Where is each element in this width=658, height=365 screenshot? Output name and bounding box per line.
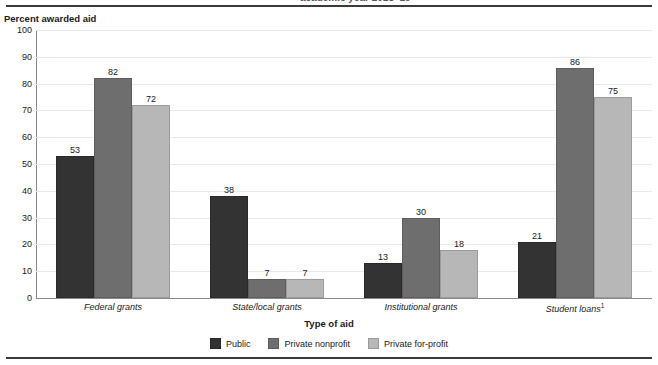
x-axis-category-label: State/local grants xyxy=(232,302,302,312)
bar[interactable]: 38 xyxy=(210,196,248,298)
bar[interactable]: 75 xyxy=(594,97,632,298)
legend-swatch xyxy=(210,338,221,349)
legend-label: Private for-profit xyxy=(384,339,448,349)
bar[interactable]: 18 xyxy=(440,250,478,298)
legend-label: Private nonprofit xyxy=(284,339,350,349)
x-axis-category-label: Federal grants xyxy=(84,302,142,312)
bar[interactable]: 7 xyxy=(248,279,286,298)
bar[interactable]: 53 xyxy=(56,156,94,298)
bar[interactable]: 7 xyxy=(286,279,324,298)
chart-legend: PublicPrivate nonprofitPrivate for-profi… xyxy=(0,338,658,349)
bar-value-label: 82 xyxy=(108,67,118,77)
clipped-title-text: academic year 2018–19 xyxy=(300,0,411,3)
y-axis-tick-label: 90 xyxy=(22,52,32,62)
top-divider-rule xyxy=(6,5,652,7)
legend-swatch xyxy=(368,338,379,349)
y-axis-tick-label: 50 xyxy=(22,159,32,169)
y-axis-tick-label: 0 xyxy=(27,293,32,303)
footnote-marker: 1 xyxy=(601,302,605,309)
legend-swatch xyxy=(268,338,279,349)
bar[interactable]: 86 xyxy=(556,68,594,298)
y-axis-tick-label: 30 xyxy=(22,213,32,223)
legend-label: Public xyxy=(226,339,251,349)
bottom-divider-rule xyxy=(6,357,652,359)
bar-group: 218675Student loans1 xyxy=(518,30,632,298)
bar-group: 538272Federal grants xyxy=(56,30,170,298)
legend-item[interactable]: Private for-profit xyxy=(368,338,448,349)
y-axis-tick-label: 20 xyxy=(22,239,32,249)
bar[interactable]: 30 xyxy=(402,218,440,298)
legend-item[interactable]: Public xyxy=(210,338,251,349)
y-axis-tick-label: 80 xyxy=(22,79,32,89)
bar-value-label: 13 xyxy=(378,252,388,262)
bar-value-label: 7 xyxy=(302,268,307,278)
y-axis-tick-label: 60 xyxy=(22,132,32,142)
x-axis-category-label: Institutional grants xyxy=(384,302,457,312)
chart-plot-area: 1009080706050403020100 538272Federal gra… xyxy=(36,30,652,298)
bar[interactable]: 13 xyxy=(364,263,402,298)
bar[interactable]: 82 xyxy=(94,78,132,298)
bar-value-label: 75 xyxy=(608,86,618,96)
bar-value-label: 72 xyxy=(146,94,156,104)
y-axis-tick-label: 70 xyxy=(22,105,32,115)
bar-group: 3877State/local grants xyxy=(210,30,324,298)
bar-value-label: 86 xyxy=(570,57,580,67)
bar[interactable]: 21 xyxy=(518,242,556,298)
y-axis-tick-label: 40 xyxy=(22,186,32,196)
y-axis-tick-label: 10 xyxy=(22,266,32,276)
y-axis-title: Percent awarded aid xyxy=(4,13,96,24)
x-axis-line xyxy=(36,298,652,299)
y-axis-tick-label: 100 xyxy=(17,25,32,35)
x-axis-title: Type of aid xyxy=(0,318,658,329)
bar-value-label: 38 xyxy=(224,185,234,195)
bar-value-label: 18 xyxy=(454,239,464,249)
x-axis-category-label: Student loans1 xyxy=(546,302,605,314)
bar-value-label: 30 xyxy=(416,207,426,217)
bar[interactable]: 72 xyxy=(132,105,170,298)
bar-value-label: 21 xyxy=(532,231,542,241)
bar-group: 133018Institutional grants xyxy=(364,30,478,298)
bar-value-label: 7 xyxy=(264,268,269,278)
bar-value-label: 53 xyxy=(70,145,80,155)
legend-item[interactable]: Private nonprofit xyxy=(268,338,350,349)
